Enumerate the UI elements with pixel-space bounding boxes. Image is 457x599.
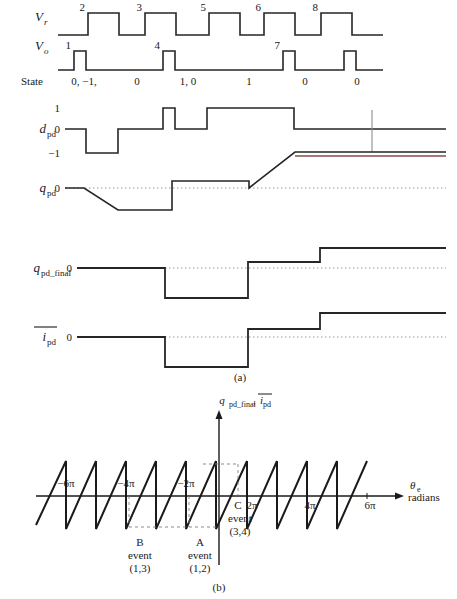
dpd-waveform bbox=[65, 108, 446, 153]
dpd-label: d bbox=[40, 121, 47, 136]
vr-pulse-number-6: 6 bbox=[256, 1, 262, 13]
panel-b-sawtooth-tooth-neg0 bbox=[156, 461, 186, 529]
qpd-label: q bbox=[40, 180, 47, 195]
vr-label-sub: r bbox=[44, 17, 48, 27]
panel-b-yaxis-label-q: q bbox=[219, 394, 225, 406]
panel-b-sawtooth-tooth-neg2 bbox=[96, 461, 126, 529]
vo-pulse-number-4: 4 bbox=[155, 39, 161, 51]
panel-a-caption: (a) bbox=[234, 371, 247, 384]
panel-b-xtick-label-6pi: 6π bbox=[364, 499, 376, 511]
vr-pulse-number-8: 8 bbox=[313, 1, 319, 13]
panel-b-xtick-label-2pi: 2π bbox=[246, 499, 258, 511]
panel-b-annotation-a-pair: (1,2) bbox=[189, 562, 210, 575]
dpd-tick-minus1: −1 bbox=[48, 147, 60, 159]
vo-waveform bbox=[58, 51, 383, 70]
row-ipd: i pd 0 bbox=[34, 313, 446, 367]
panel-b-annotation-b-event: event bbox=[128, 549, 152, 561]
panel-b-annotation-a-event: event bbox=[188, 549, 212, 561]
panel-b-xtick-label-neg4pi: −4π bbox=[117, 477, 135, 489]
figure-svg: V r 2 3 5 6 8 V o 1 4 7 State 0, −1, 0 1… bbox=[0, 0, 457, 599]
panel-b-sawtooth-tooth-pos2 bbox=[277, 461, 307, 529]
state-value-1: 0 bbox=[134, 75, 140, 87]
ipd-tick-0: 0 bbox=[67, 331, 73, 343]
qpdfinal-label: q bbox=[34, 260, 41, 275]
panel-b-annotation-c-event: event bbox=[228, 512, 252, 524]
panel-b-annotation-a-letter: A bbox=[196, 536, 204, 548]
dpd-tick-1: 1 bbox=[55, 102, 61, 114]
panel-b-sawtooth-tooth-pos4 bbox=[337, 461, 367, 529]
state-value-3: 1 bbox=[246, 75, 252, 87]
row-state: State 0, −1, 0 1, 0 1 0 0 bbox=[21, 75, 360, 87]
state-value-5: 0 bbox=[354, 75, 360, 87]
panel-b-sawtooth-tooth-neg1 bbox=[126, 461, 156, 529]
row-qpdfinal: q pd_final 0 bbox=[34, 248, 447, 298]
state-value-0: 0, −1, bbox=[71, 75, 97, 87]
ipd-label-sub: pd bbox=[47, 337, 57, 347]
row-qpd: q pd 0 bbox=[40, 152, 447, 210]
dpd-tick-0: 0 bbox=[55, 123, 61, 135]
ipd-waveform bbox=[77, 313, 446, 367]
panel-b-y-axis-arrowhead bbox=[216, 410, 223, 419]
panel-b-caption: (b) bbox=[213, 581, 226, 594]
row-vr: V r 2 3 5 6 8 bbox=[35, 1, 383, 35]
row-dpd: d pd 0 1 −1 bbox=[40, 102, 447, 159]
panel-b-yaxis-label-comma: , bbox=[253, 394, 256, 406]
vo-label-sub: o bbox=[44, 46, 49, 56]
panel-b-sawtooth-tooth-origin-left bbox=[186, 461, 216, 529]
vo-pulse-number-1: 1 bbox=[66, 39, 72, 51]
panel-b: q pd_final , i pd θ e radians bbox=[36, 394, 440, 594]
panel-b-annotation-c-pair: (3,4) bbox=[229, 525, 250, 538]
vr-pulse-number-5: 5 bbox=[201, 1, 207, 13]
vo-pulse-number-7: 7 bbox=[275, 39, 281, 51]
qpd-tick-0: 0 bbox=[55, 182, 61, 194]
vr-waveform bbox=[58, 13, 383, 35]
vr-pulse-number-3: 3 bbox=[137, 1, 143, 13]
state-value-2: 1, 0 bbox=[180, 75, 197, 87]
vr-pulse-number-2: 2 bbox=[80, 1, 86, 13]
panel-b-annotation-b-letter: B bbox=[136, 536, 143, 548]
panel-b-xtick-label-neg6pi: −6π bbox=[57, 477, 75, 489]
panel-b-xaxis-label-units: radians bbox=[408, 491, 440, 503]
panel-b-xtick-label-4pi: 4π bbox=[304, 499, 316, 511]
qpdfinal-tick-0: 0 bbox=[67, 262, 73, 274]
qpdfinal-waveform bbox=[77, 248, 446, 298]
panel-b-xaxis-label-theta: θ bbox=[410, 479, 416, 491]
ipd-label: i bbox=[42, 329, 46, 344]
panel-b-sawtooth-tooth-pos3 bbox=[307, 461, 337, 529]
row-vo: V o 1 4 7 bbox=[35, 38, 383, 70]
state-label: State bbox=[21, 75, 43, 87]
panel-b-annotation-b-pair: (1,3) bbox=[129, 562, 150, 575]
panel-b-annotation-c-letter: C bbox=[234, 499, 241, 511]
qpd-waveform bbox=[65, 152, 446, 210]
panel-b-x-axis-arrowhead bbox=[395, 493, 404, 500]
figure-container: V r 2 3 5 6 8 V o 1 4 7 State 0, −1, 0 1… bbox=[0, 0, 457, 599]
panel-b-yaxis-label-isub: pd bbox=[263, 400, 271, 409]
panel-b-xtick-label-neg2pi: −2π bbox=[177, 477, 195, 489]
state-value-4: 0 bbox=[302, 75, 308, 87]
